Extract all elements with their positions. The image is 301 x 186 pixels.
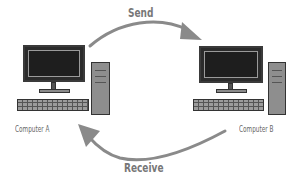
tower-icon — [268, 62, 286, 115]
keyboard-icon — [17, 99, 89, 111]
receive-label: Receive — [124, 161, 164, 175]
receive-arrow — [88, 131, 225, 160]
send-label: Send — [128, 6, 153, 20]
computer-a-label: Computer A — [15, 125, 49, 134]
send-arrowhead-icon — [180, 22, 202, 40]
screen — [204, 51, 258, 78]
computer-b-label: Computer B — [239, 125, 273, 134]
screen — [28, 50, 80, 77]
monitor-icon — [199, 46, 263, 83]
arrows-layer — [0, 0, 301, 186]
tower-icon — [91, 62, 110, 115]
monitor-base — [39, 89, 70, 93]
send-arrow — [90, 22, 188, 46]
monitor-icon — [23, 45, 85, 82]
monitor-base — [216, 89, 247, 93]
keyboard-icon — [193, 99, 264, 111]
